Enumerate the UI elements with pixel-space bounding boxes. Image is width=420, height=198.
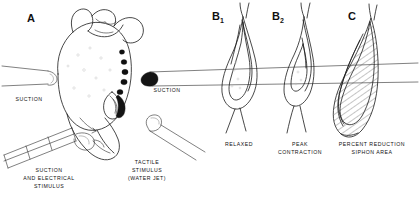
caption-peak-2: CONTRACTION	[278, 149, 322, 155]
suction-electrode-grid	[4, 128, 104, 168]
caption-percent-2: SIPHON AREA	[351, 149, 392, 155]
label-suction-left: SUCTION	[16, 96, 43, 102]
panel-c-drawing	[333, 4, 378, 137]
body-speckle	[67, 47, 111, 97]
label-tactile-1: TACTILE	[135, 159, 159, 165]
caption-peak-1: PEAK	[292, 141, 308, 147]
panel-b2-drawing	[284, 3, 314, 133]
label-tactile-3: (WATER JET)	[128, 175, 166, 181]
siphon-folds	[104, 92, 126, 119]
label-tactile-2: STIMULUS	[132, 167, 162, 173]
panel-b1-drawing	[222, 3, 257, 133]
aplysia-body-outline	[58, 9, 144, 130]
figure-canvas: A SUCTION SUCTION SUCTION AND ELECTRICAL…	[0, 0, 420, 198]
panel-b1-letter: B	[212, 10, 220, 22]
label-suction-electrical-1: SUCTION	[36, 167, 63, 173]
caption-percent-1: PERCENT REDUCTION	[339, 141, 405, 147]
figure-panel-container: A SUCTION SUCTION SUCTION AND ELECTRICAL…	[0, 0, 420, 198]
label-suction-electrical-2: AND ELECTRICAL	[23, 175, 74, 181]
left-suction-tube	[2, 66, 57, 86]
label-suction-electrical-3: STIMULUS	[34, 183, 64, 189]
water-jet-nozzle	[146, 115, 205, 160]
panel-b2-letter: B	[272, 10, 280, 22]
panel-b2-subscript: 2	[280, 17, 284, 24]
label-suction-right: SUCTION	[154, 87, 181, 93]
panel-a-letter: A	[27, 12, 35, 24]
gill-pinnules	[117, 50, 128, 95]
caption-relaxed: RELAXED	[225, 141, 253, 147]
panel-b1-subscript: 1	[220, 17, 224, 24]
panel-c-letter: C	[348, 10, 356, 22]
